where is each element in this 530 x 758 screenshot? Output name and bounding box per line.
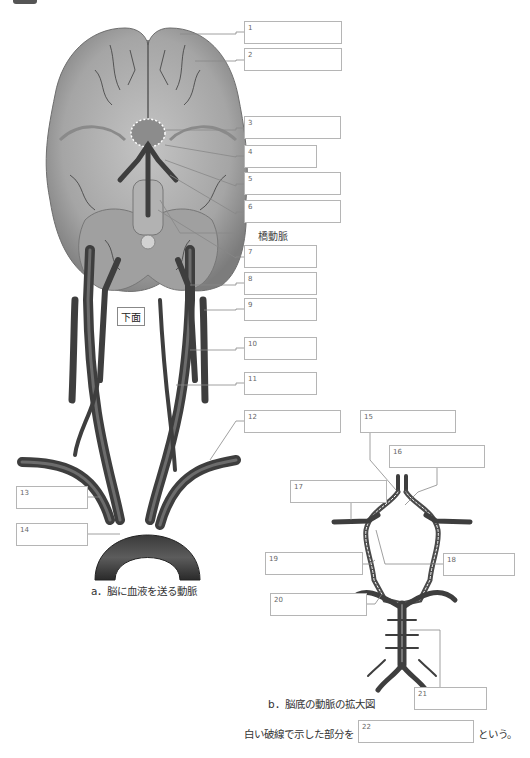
view-tag-inferior: 下面 bbox=[117, 307, 145, 326]
answer-box-number: 21 bbox=[418, 690, 427, 698]
answer-box-number: 1 bbox=[248, 24, 252, 32]
answer-box-number: 9 bbox=[248, 301, 252, 309]
answer-box-18[interactable]: 18 bbox=[443, 553, 515, 576]
answer-box-number: 19 bbox=[269, 555, 278, 563]
answer-box-number: 5 bbox=[248, 175, 252, 183]
answer-box-number: 7 bbox=[248, 248, 252, 256]
answer-box-number: 15 bbox=[364, 413, 373, 421]
answer-box-15[interactable]: 15 bbox=[360, 410, 456, 433]
answer-box-20[interactable]: 20 bbox=[270, 593, 367, 616]
question-prefix: 白い破線で示した部分を bbox=[244, 726, 354, 741]
answer-box-21[interactable]: 21 bbox=[414, 687, 487, 710]
answer-box-number: 3 bbox=[248, 119, 252, 127]
answer-box-number: 11 bbox=[248, 375, 257, 383]
answer-box-10[interactable]: 10 bbox=[244, 337, 317, 360]
answer-box-19[interactable]: 19 bbox=[265, 552, 363, 575]
answer-box-22[interactable]: 22 bbox=[358, 720, 474, 743]
caption-a: a．脳に血液を送る動脈 bbox=[91, 583, 197, 598]
answer-box-number: 17 bbox=[294, 483, 303, 491]
caption-b: b．脳底の動脈の拡大図 bbox=[268, 696, 375, 711]
answer-box-5[interactable]: 5 bbox=[244, 172, 341, 195]
question-suffix: という。 bbox=[478, 726, 517, 741]
answer-box-number: 10 bbox=[248, 340, 257, 348]
answer-box-6[interactable]: 6 bbox=[244, 200, 341, 223]
basilar-enlarged bbox=[334, 476, 470, 690]
answer-box-9[interactable]: 9 bbox=[244, 298, 317, 321]
answer-box-number: 2 bbox=[248, 51, 252, 59]
answer-box-number: 6 bbox=[248, 203, 252, 211]
answer-box-16[interactable]: 16 bbox=[389, 445, 485, 468]
answer-box-8[interactable]: 8 bbox=[244, 272, 317, 295]
answer-box-number: 20 bbox=[274, 596, 283, 604]
answer-box-7[interactable]: 7 bbox=[244, 245, 317, 268]
answer-box-number: 14 bbox=[20, 526, 29, 534]
answer-box-1[interactable]: 1 bbox=[244, 21, 342, 44]
answer-box-number: 8 bbox=[248, 275, 252, 283]
answer-box-2[interactable]: 2 bbox=[244, 48, 342, 71]
answer-box-number: 22 bbox=[362, 723, 371, 731]
pons-artery-label: 橋動脈 bbox=[258, 228, 288, 243]
answer-box-number: 13 bbox=[20, 489, 29, 497]
answer-box-3[interactable]: 3 bbox=[244, 116, 341, 139]
answer-box-number: 4 bbox=[248, 148, 252, 156]
answer-box-number: 18 bbox=[447, 556, 456, 564]
answer-box-14[interactable]: 14 bbox=[16, 523, 88, 546]
aortic-arch bbox=[95, 535, 200, 580]
answer-box-11[interactable]: 11 bbox=[244, 372, 317, 395]
answer-box-17[interactable]: 17 bbox=[290, 480, 387, 503]
answer-box-13[interactable]: 13 bbox=[16, 486, 88, 509]
answer-box-12[interactable]: 12 bbox=[244, 410, 341, 433]
answer-box-number: 16 bbox=[393, 448, 402, 456]
answer-box-number: 12 bbox=[248, 413, 257, 421]
answer-box-4[interactable]: 4 bbox=[244, 145, 317, 168]
